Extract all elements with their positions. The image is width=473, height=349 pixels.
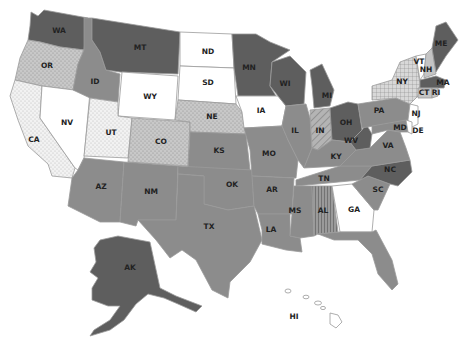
svg-text:AR: AR: [266, 185, 278, 194]
svg-text:KS: KS: [213, 146, 224, 155]
svg-text:IL: IL: [291, 126, 299, 135]
svg-text:WI: WI: [279, 79, 290, 88]
svg-text:OH: OH: [340, 118, 353, 127]
svg-text:NM: NM: [144, 187, 158, 196]
svg-text:HI: HI: [289, 312, 298, 321]
svg-text:MS: MS: [289, 206, 302, 215]
svg-text:MO: MO: [262, 149, 276, 158]
svg-text:RI: RI: [432, 88, 441, 97]
svg-text:VA: VA: [382, 141, 393, 150]
svg-text:CO: CO: [155, 137, 167, 146]
svg-text:SD: SD: [202, 78, 214, 87]
svg-text:MN: MN: [242, 63, 256, 72]
svg-text:ME: ME: [435, 39, 448, 48]
svg-text:SC: SC: [373, 185, 384, 194]
svg-text:ND: ND: [202, 47, 215, 56]
svg-text:IA: IA: [257, 106, 266, 115]
svg-text:OR: OR: [41, 61, 53, 70]
svg-text:DE: DE: [412, 126, 423, 135]
us-choropleth-map: WA OR CA NV ID MT WY UT CO AZ NM ND SD N…: [0, 0, 473, 349]
svg-text:IN: IN: [315, 126, 324, 135]
state-HI[interactable]: [285, 289, 342, 328]
svg-text:TN: TN: [318, 174, 329, 183]
svg-text:AZ: AZ: [95, 182, 107, 191]
svg-text:CA: CA: [28, 135, 40, 144]
state-FL[interactable]: [318, 230, 398, 290]
svg-text:MD: MD: [393, 123, 407, 132]
svg-text:GA: GA: [348, 205, 360, 214]
svg-text:TX: TX: [204, 222, 215, 231]
svg-text:MI: MI: [322, 91, 332, 100]
svg-text:NH: NH: [420, 65, 433, 74]
svg-text:OK: OK: [226, 180, 239, 189]
svg-text:WV: WV: [344, 136, 358, 145]
svg-text:WY: WY: [143, 92, 157, 101]
svg-text:UT: UT: [105, 128, 117, 137]
svg-text:NE: NE: [206, 112, 217, 121]
svg-text:AK: AK: [124, 263, 137, 272]
svg-text:NC: NC: [384, 165, 396, 174]
svg-text:CT: CT: [419, 88, 431, 97]
svg-text:NJ: NJ: [411, 109, 420, 118]
svg-text:MT: MT: [134, 43, 147, 52]
svg-text:LA: LA: [266, 225, 277, 234]
svg-text:WA: WA: [52, 26, 66, 35]
svg-text:AL: AL: [318, 206, 329, 215]
svg-text:KY: KY: [330, 152, 342, 161]
state-MI[interactable]: [310, 64, 334, 108]
svg-text:PA: PA: [374, 106, 385, 115]
svg-text:ID: ID: [90, 77, 99, 86]
svg-text:NY: NY: [396, 77, 408, 86]
svg-text:NV: NV: [61, 118, 73, 127]
svg-text:MA: MA: [436, 78, 449, 87]
